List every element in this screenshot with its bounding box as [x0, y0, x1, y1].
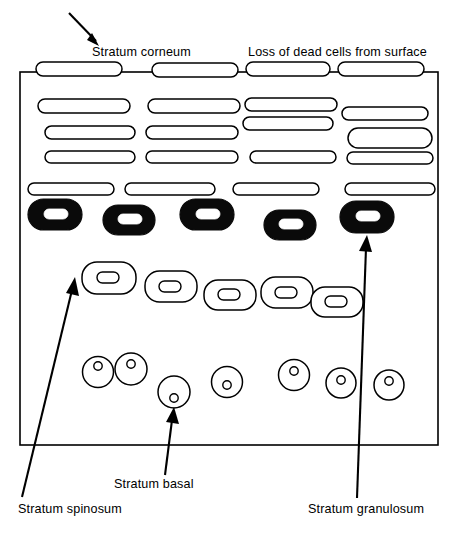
granulosum-cell: [340, 201, 394, 233]
granulosum-nucleus: [118, 214, 142, 224]
spinosum-cell: [82, 262, 136, 294]
stratum-spinosum-layer: [82, 262, 363, 317]
basal-cell: [158, 376, 190, 408]
corneum-cell: [233, 183, 319, 195]
stratum-granulosum-layer: [28, 199, 394, 240]
spinosum-cell: [204, 280, 256, 310]
basal-cell: [279, 360, 310, 391]
basal-nucleus: [170, 394, 178, 402]
corneum-cell: [28, 183, 114, 195]
basal-nucleus: [337, 376, 345, 384]
spinosum-nucleus: [159, 281, 181, 292]
corneum-row-3: [45, 117, 432, 148]
corneum-cell: [246, 62, 330, 76]
corneum-cell: [342, 107, 428, 120]
granulosum-cell: [180, 199, 234, 230]
spinosum-annotation-pointer: [22, 277, 79, 497]
granulosum-label: Stratum granulosum: [308, 502, 424, 516]
corneum-cell: [146, 151, 238, 163]
basal-annotation-pointer: [165, 407, 179, 475]
basal-cell: [326, 368, 356, 398]
corneum-row-4: [45, 151, 433, 164]
granulosum-nucleus: [356, 211, 380, 221]
basal-cell: [83, 357, 114, 388]
corneum-row-5: [28, 183, 435, 195]
spinosum-nucleus: [97, 272, 119, 283]
spinosum-nucleus: [218, 289, 240, 300]
granulosum-cell: [103, 205, 155, 235]
granulosum-cell: [28, 199, 82, 230]
corneum-label: Stratum corneum: [92, 45, 191, 59]
granulosum-annotation-pointer: [357, 235, 372, 498]
corneum-surface-row: [36, 62, 424, 77]
stratum-basal-layer: [83, 353, 405, 408]
corneum-cell: [245, 98, 337, 111]
corneum-cell: [36, 62, 122, 76]
basal-nucleus: [290, 367, 298, 375]
corneum-annotation-pointer: [69, 13, 99, 46]
basal-nucleus: [223, 381, 231, 389]
basal-cell: [115, 353, 147, 385]
corneum-cell: [125, 183, 215, 195]
corneum-cell: [338, 62, 424, 76]
granulosum-cell: [264, 210, 316, 240]
corneum-cell: [38, 99, 130, 113]
granulosum-nucleus: [279, 219, 303, 229]
spinosum-cell: [261, 277, 313, 308]
granulosum-nucleus: [196, 209, 220, 219]
corneum-cell: [347, 152, 433, 164]
basal-cell: [374, 370, 404, 400]
corneum-cell: [146, 126, 238, 139]
spinosum-cell: [311, 287, 363, 317]
corneum-cell: [45, 151, 135, 163]
spinosum-nucleus: [275, 287, 297, 298]
corneum-cell: [152, 63, 238, 77]
corneum-cell: [148, 99, 240, 113]
epidermis-diagram-figure: Stratum corneum Loss of dead cells from …: [0, 0, 455, 539]
spinosum-label: Stratum spinosum: [18, 502, 122, 516]
basal-label: Stratum basal: [114, 477, 194, 491]
basal-nucleus: [127, 360, 135, 368]
corneum-cell: [348, 128, 432, 148]
corneum-cell: [243, 117, 333, 130]
basal-nucleus: [385, 377, 393, 385]
corneum-cell: [250, 151, 336, 163]
corneum-row-2: [38, 98, 428, 120]
spinosum-cell: [145, 271, 197, 302]
basal-cell: [212, 367, 243, 398]
spinosum-nucleus: [325, 296, 347, 307]
stratum-corneum-layer: [28, 62, 435, 195]
granulosum-nucleus: [44, 209, 68, 219]
corneum-cell: [45, 126, 135, 139]
basal-nucleus: [94, 362, 102, 370]
loss-of-dead-cells-label: Loss of dead cells from surface: [248, 45, 427, 59]
diagram-canvas: Stratum corneum Loss of dead cells from …: [0, 0, 455, 539]
corneum-cell: [345, 183, 435, 195]
